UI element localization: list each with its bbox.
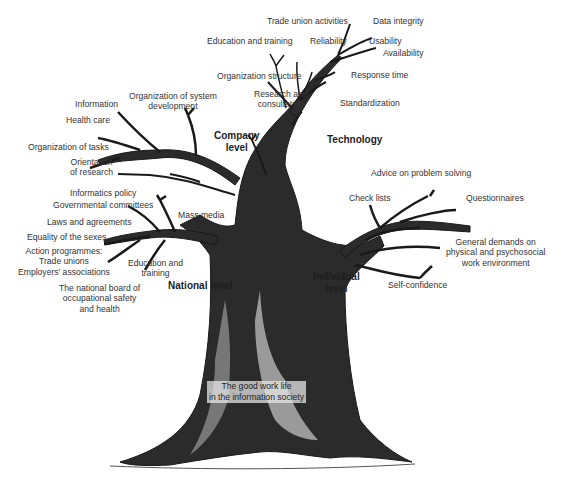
label-questionnaires: Questionnaires	[466, 193, 524, 203]
label-general-demands: General demands on physical and psychoso…	[446, 237, 545, 268]
label-laws-and-agreements: Laws and agreements	[47, 217, 132, 227]
label-informatics-policy: Informatics policy	[70, 188, 136, 198]
label-data-integrity: Data integrity	[373, 16, 424, 26]
label-governmental-committees: Governmental committees	[53, 200, 153, 210]
label-education-and-training-tech: Education and training	[207, 36, 293, 46]
label-mass-media: Mass media	[178, 210, 224, 220]
label-action-programmes: Action programmes: Trade unions Employer…	[18, 246, 110, 277]
label-information: Information	[75, 99, 118, 109]
label-research-and-consultation: Research and consultation	[254, 89, 308, 110]
label-self-confidence: Self-confidence	[388, 280, 447, 290]
label-check-lists: Check lists	[349, 193, 391, 203]
label-technology: Technology	[327, 134, 382, 146]
label-health-care: Health care	[66, 115, 110, 125]
label-organization-structure: Organization structure	[217, 71, 302, 81]
label-reliability: Reliability	[310, 36, 347, 46]
label-national-level: National level	[168, 280, 232, 292]
label-availability: Availability	[383, 48, 423, 58]
label-standardization: Standardization	[340, 98, 400, 108]
label-national-board: The national board of occupational safet…	[59, 283, 140, 314]
label-organization-of-system-development: Organization of system development	[129, 91, 217, 112]
label-organization-of-tasks: Organization of tasks	[28, 142, 109, 152]
label-company-level: Company level	[214, 130, 260, 154]
label-trade-union-activities: Trade union activities	[267, 16, 348, 26]
label-education-and-training-national: Education and training	[128, 258, 183, 279]
label-orientation-of-research: Orientation of research	[70, 157, 113, 178]
label-usability: Usability	[369, 36, 401, 46]
label-individual-level: Individual level	[313, 271, 360, 295]
label-trunk-good-work-life: The good work life in the information so…	[207, 381, 306, 403]
label-advice-on-problem-solving: Advice on problem solving	[371, 168, 471, 178]
label-response-time: Response time	[351, 70, 408, 80]
label-equality-of-the-sexes: Equality of the sexes	[27, 232, 106, 242]
